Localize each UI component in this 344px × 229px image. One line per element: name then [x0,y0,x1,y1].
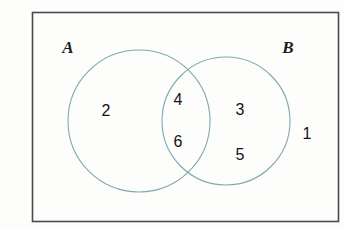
element-intersection-4: 4 [174,92,183,108]
venn-diagram-canvas [0,0,344,229]
element-b-only-3: 3 [236,102,245,118]
element-intersection-6: 6 [174,134,183,150]
set-b-circle [162,57,290,185]
element-a-only-2: 2 [102,103,111,119]
element-outside-1: 1 [303,126,312,142]
set-a-label: A [62,39,73,56]
set-a-circle [68,50,210,192]
element-b-only-5: 5 [236,147,245,163]
venn-diagram-figure: A B 2 4 6 3 5 1 [0,0,344,229]
set-b-label: B [282,39,293,56]
